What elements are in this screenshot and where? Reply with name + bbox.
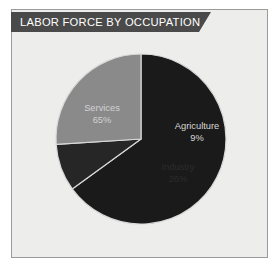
pie-slices-final xyxy=(56,54,226,224)
chart-figure: Services 65% Agriculture 9% Industry 26%… xyxy=(0,0,279,275)
pie-chart xyxy=(11,9,268,258)
page-title: LABOR FORCE BY OCCUPATION xyxy=(20,12,200,32)
slice-industry xyxy=(56,54,141,144)
